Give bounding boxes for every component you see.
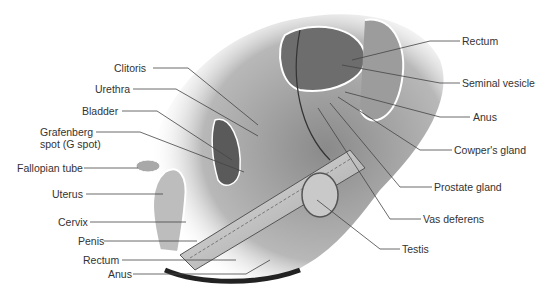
label-cowpers-gland: Cowper's gland	[454, 144, 526, 156]
label-anus-female: Anus	[108, 268, 132, 280]
anatomy-diagram: Clitoris Urethra Bladder Grafenberg spot…	[0, 0, 550, 292]
label-rectum-female: Rectum	[83, 254, 119, 266]
label-cervix: Cervix	[58, 216, 88, 228]
label-rectum-male: Rectum	[462, 35, 498, 47]
label-prostate-gland: Prostate gland	[434, 181, 502, 193]
label-testis: Testis	[402, 243, 429, 255]
testis-shape	[302, 173, 338, 217]
label-fallopian-tube: Fallopian tube	[17, 162, 83, 174]
label-uterus: Uterus	[52, 188, 83, 200]
label-penis: Penis	[78, 235, 104, 247]
label-bladder: Bladder	[82, 105, 118, 117]
fallopian-tube-shape	[136, 160, 160, 172]
label-anus-male: Anus	[473, 111, 497, 123]
label-grafenberg: Grafenberg	[40, 126, 93, 138]
label-vas-deferens: Vas deferens	[423, 213, 484, 225]
uterus-shape	[153, 169, 186, 252]
label-g-spot: spot (G spot)	[40, 138, 101, 150]
label-urethra: Urethra	[95, 83, 130, 95]
label-clitoris: Clitoris	[114, 62, 146, 74]
label-seminal-vesicle: Seminal vesicle	[462, 77, 535, 89]
